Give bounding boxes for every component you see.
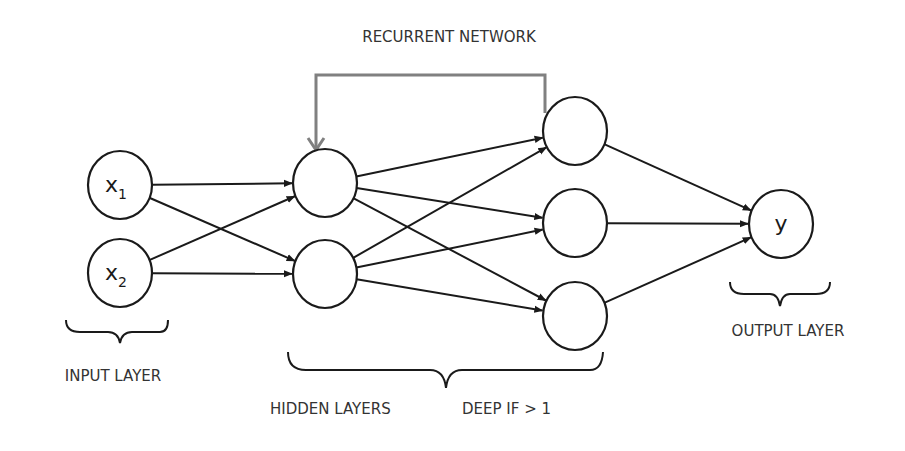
- edge-x1-to-h1a: [152, 183, 292, 184]
- node-circle: [88, 239, 152, 307]
- input-layer-brace: [66, 320, 168, 343]
- edge-h1a-to-h2a: [356, 138, 542, 177]
- hidden-layers-label: HIDDEN LAYERS: [270, 400, 391, 418]
- edge-h2c-to-y: [604, 237, 751, 302]
- node-circle: [543, 189, 607, 257]
- node-x2: x2: [88, 239, 152, 307]
- edge-h1b-to-h2a: [353, 147, 547, 258]
- node-h2b: [543, 189, 607, 257]
- output-layer-label: OUTPUT LAYER: [732, 322, 845, 340]
- neural-network-diagram: RECURRENT NETWORK x1x2y INPUT LAYER HIDD…: [0, 0, 905, 451]
- edge-x2-to-h1b: [152, 273, 292, 274]
- deep-note-label: DEEP IF > 1: [462, 400, 551, 418]
- node-label: y: [774, 211, 787, 236]
- node-subscript: 1: [118, 186, 127, 202]
- input-layer-label: INPUT LAYER: [65, 367, 161, 385]
- node-h2c: [543, 282, 607, 350]
- node-circle: [293, 240, 357, 308]
- recurrent-connection: [308, 75, 545, 150]
- node-h1b: [293, 240, 357, 308]
- edge-h1b-to-h2b: [356, 230, 542, 268]
- recurrent-network-title: RECURRENT NETWORK: [362, 28, 537, 46]
- edge-h2b-to-y: [607, 223, 748, 224]
- node-circle: [88, 151, 152, 219]
- node-y: y: [749, 190, 813, 258]
- node-x1: x1: [88, 151, 152, 219]
- node-circle: [543, 97, 607, 165]
- node-h1a: [293, 149, 357, 217]
- node-circle: [543, 282, 607, 350]
- node-h2a: [543, 97, 607, 165]
- output-layer-brace: [730, 282, 830, 306]
- node-circle: [293, 149, 357, 217]
- node-subscript: 2: [118, 274, 127, 290]
- edge-h2a-to-y: [604, 144, 751, 210]
- hidden-layers-brace: [288, 352, 603, 388]
- edges-group: [149, 138, 751, 311]
- recurrent-line: [316, 75, 545, 149]
